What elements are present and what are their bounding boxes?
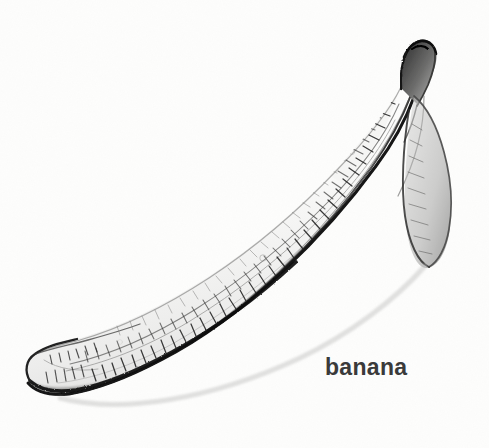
banana-illustration (0, 0, 489, 448)
banana-caption: banana (325, 355, 407, 379)
recipe-page: Serves 1 – 2 (0, 0, 489, 448)
